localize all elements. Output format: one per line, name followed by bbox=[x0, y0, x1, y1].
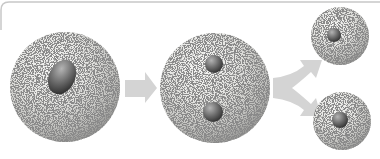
nucleus-bottom bbox=[203, 102, 223, 122]
diagram-canvas bbox=[0, 0, 380, 159]
parent-cell bbox=[10, 32, 120, 142]
cell-division-diagram bbox=[0, 0, 380, 159]
daughter-cell-top bbox=[311, 7, 369, 65]
arrow-right-icon bbox=[125, 72, 157, 103]
dividing-cell bbox=[160, 33, 270, 143]
nucleus-top bbox=[205, 55, 223, 73]
daughter-cell-bottom bbox=[313, 92, 371, 150]
nucleus bbox=[332, 112, 348, 128]
forked-arrow-icon bbox=[273, 60, 322, 116]
nucleus bbox=[327, 28, 341, 42]
